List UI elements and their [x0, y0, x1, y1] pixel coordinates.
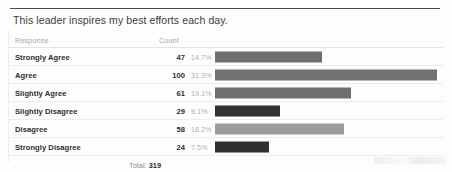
total-summary: Total: 319 [9, 160, 281, 169]
table-header-row: Response Count [9, 32, 443, 48]
response-percent: 18.2% [191, 124, 211, 133]
bar-cell [215, 66, 443, 83]
response-count: 58 [159, 124, 185, 133]
response-count: 61 [159, 88, 185, 97]
response-table: Response Count Strongly Agree 47 14.7% A… [9, 32, 443, 172]
bar-cell [215, 102, 443, 119]
response-count: 100 [159, 70, 185, 79]
response-label: Slightly Agree [15, 88, 66, 97]
table-row: Slightly Disagree 29 9.1% [9, 102, 443, 120]
question-title: This leader inspires my best efforts eac… [13, 14, 228, 26]
response-percent: 31.3% [191, 70, 211, 79]
table-row: Strongly Disagree 24 7.5% [9, 138, 443, 156]
response-count: 24 [159, 142, 185, 151]
top-divider [10, 8, 440, 9]
response-percent: 9.1% [191, 106, 207, 115]
total-label: Total: [129, 160, 147, 169]
table-row: Disagree 58 18.2% [9, 120, 443, 138]
table-row: Strongly Agree 47 14.7% [9, 48, 443, 66]
response-bar [215, 87, 351, 98]
response-bar [215, 123, 344, 134]
response-count: 47 [159, 52, 185, 61]
response-percent: 7.5% [191, 142, 207, 151]
bar-cell [215, 84, 443, 101]
response-count: 29 [159, 106, 185, 115]
bar-cell [215, 120, 443, 137]
response-bar [215, 141, 269, 152]
response-label: Strongly Agree [15, 52, 70, 61]
total-value: 319 [149, 160, 161, 169]
response-label: Disagree [15, 124, 47, 133]
response-label: Agree [15, 70, 37, 79]
response-label: Strongly Disagree [15, 142, 81, 151]
response-percent: 14.7% [191, 52, 211, 61]
table-row: Agree 100 31.3% [9, 66, 443, 84]
response-bar [215, 69, 437, 80]
response-bar [215, 51, 322, 62]
response-percent: 19.1% [191, 88, 211, 97]
column-header-count: Count [159, 35, 179, 44]
table-row: Slightly Agree 61 19.1% [9, 84, 443, 102]
response-bar [215, 105, 280, 116]
bar-cell [215, 48, 443, 65]
bar-cell [215, 138, 443, 155]
watermark [374, 157, 446, 164]
column-header-response: Response [15, 35, 49, 44]
response-label: Slightly Disagree [15, 106, 77, 115]
survey-result-card: This leader inspires my best efforts eac… [0, 0, 452, 172]
